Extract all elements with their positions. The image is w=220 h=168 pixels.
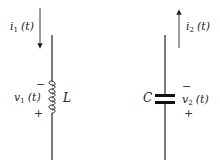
- capacitor-plate-bottom: [155, 101, 175, 104]
- inductor-symbol-label: L: [62, 91, 71, 105]
- voltage-label-v1: v1(t): [14, 91, 41, 105]
- inductor-voltage-plus: +: [34, 107, 43, 120]
- capacitor-plate-top: [155, 94, 175, 97]
- circuit-diagram: i1(t) − v1(t) + L i2(t) C − v2(t) +: [0, 0, 220, 168]
- capacitor-voltage-minus: −: [182, 80, 191, 93]
- inductor-branch: i1(t) − v1(t) + L: [10, 8, 71, 160]
- voltage-label-v2: v2(t): [182, 93, 209, 107]
- capacitor-branch: i2(t) C − v2(t) +: [143, 12, 210, 160]
- capacitor-symbol-label: C: [143, 91, 152, 105]
- inductor-coil: [49, 81, 55, 113]
- current-label-i1: i1(t): [10, 20, 34, 34]
- current-label-i2: i2(t): [186, 20, 210, 34]
- capacitor-voltage-plus: +: [184, 107, 193, 120]
- inductor-voltage-minus: −: [36, 78, 45, 91]
